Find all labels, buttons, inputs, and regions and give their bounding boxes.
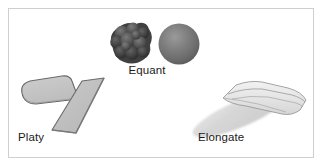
equant-shape-group <box>110 23 199 65</box>
lumpy-aggregate-blob-shape <box>110 23 152 64</box>
sphere-shape <box>159 24 200 65</box>
grain-shape-diagram: Equant Platy Elongate <box>0 0 324 168</box>
shape-label-elongate: Elongate <box>198 131 244 144</box>
shape-label-equant: Equant <box>110 64 184 77</box>
platy-shape-group <box>22 76 104 133</box>
shape-label-platy: Platy <box>18 131 44 144</box>
shapes-canvas <box>0 0 324 168</box>
irregular-plate-shape <box>22 76 76 104</box>
